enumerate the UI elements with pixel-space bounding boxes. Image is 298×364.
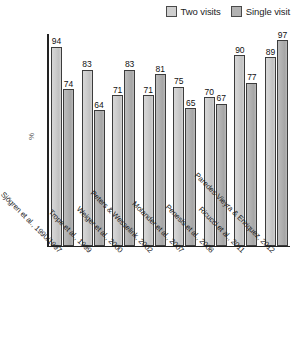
bar-value-label: 81 [155, 64, 164, 74]
bar-value-label: 77 [247, 72, 256, 82]
bar-value-label: 74 [64, 79, 73, 89]
bar-two[interactable]: 89 [265, 34, 276, 246]
legend-item-two-visits: Two visits [166, 6, 221, 17]
bar-single[interactable]: 81 [155, 34, 166, 246]
bar-value-label: 67 [217, 93, 226, 103]
bar-value-label: 75 [174, 76, 183, 86]
bar-single[interactable]: 65 [185, 34, 196, 246]
bar-single[interactable]: 74 [63, 34, 74, 246]
bar-rect [277, 40, 288, 245]
bar-single[interactable]: 67 [216, 34, 227, 246]
bar-single[interactable]: 77 [246, 34, 257, 246]
legend-swatch-single-visit [231, 6, 242, 17]
legend-swatch-two-visits [166, 6, 177, 17]
x-axis-category-labels: Sjögren et al., 1990/1997Trope et al., 1… [47, 249, 290, 361]
y-axis-label: % [27, 133, 36, 140]
bar-value-label: 65 [186, 98, 195, 108]
bar-value-label: 71 [143, 85, 152, 95]
bar-value-label: 83 [82, 59, 91, 69]
bar-single[interactable]: 64 [94, 34, 105, 246]
chart-legend: Two visits Single visit [0, 6, 298, 17]
bar-value-label: 90 [235, 45, 244, 55]
legend-item-single-visit: Single visit [231, 6, 290, 17]
bar-value-label: 89 [266, 47, 275, 57]
bar-single[interactable]: 83 [124, 34, 135, 246]
legend-label-two-visits: Two visits [181, 6, 221, 17]
bar-rect [265, 57, 276, 245]
bar-value-label: 70 [205, 87, 214, 97]
bar-value-label: 94 [52, 36, 61, 46]
bar-value-label: 64 [94, 100, 103, 110]
legend-label-single-visit: Single visit [246, 6, 290, 17]
bar-value-label: 97 [278, 30, 287, 40]
bar-value-label: 71 [113, 85, 122, 95]
bar-single[interactable]: 97 [277, 34, 288, 246]
bar-value-label: 83 [125, 59, 134, 69]
bar-group: 8997 [265, 34, 288, 246]
